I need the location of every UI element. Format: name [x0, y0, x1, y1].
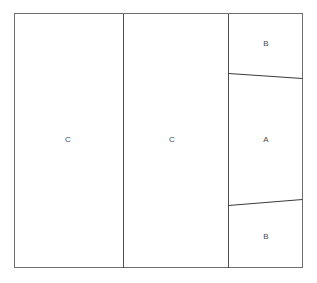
diagram-background [14, 13, 303, 268]
region-label-a-middle: A [263, 135, 269, 144]
region-partition-diagram: C C B A B [0, 0, 317, 283]
region-label-b-top: B [263, 39, 269, 48]
diagram-canvas: C C B A B [0, 0, 317, 283]
region-label-c-middle: C [169, 135, 175, 144]
region-label-b-bottom: B [263, 232, 269, 241]
region-label-c-left: C [65, 135, 71, 144]
